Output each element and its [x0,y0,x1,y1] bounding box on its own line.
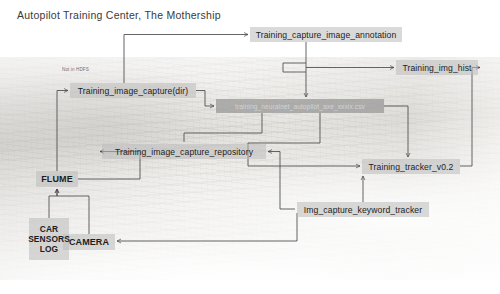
node-training-img-hist[interactable]: Training_img_hist [396,60,478,75]
page-title: Autopilot Training Center, The Mothershi… [17,9,221,21]
node-label-line-2: SENSORS [28,234,70,244]
node-label: CAMERA [69,237,109,247]
node-label: FLUME [41,174,73,184]
node-camera[interactable]: CAMERA [63,234,115,250]
node-label: Training_image_capture(dir) [78,86,188,96]
node-training-capture-image-annotation[interactable]: Training_capture_image_annotation [250,27,402,42]
node-training-tracker-v02[interactable]: Training_tracker_v0.2 [362,159,460,174]
diagram-canvas: Autopilot Training Center, The Mothershi… [0,0,500,294]
node-label: Training_capture_image_annotation [256,30,397,40]
node-label-line-1: CAR [40,224,58,234]
node-training-neuralnet-csv[interactable]: training_neuralnet_autopilot_axe_xxxix.c… [216,99,384,113]
node-label-line-3: LOG [40,244,58,254]
node-training-image-capture-dir[interactable]: Training_image_capture(dir) [70,83,196,98]
node-label: Training_img_hist [402,63,471,73]
node-car-sensors-log[interactable]: CAR SENSORS LOG [29,218,69,260]
node-label: Training_tracker_v0.2 [369,162,454,172]
node-flume[interactable]: FLUME [36,171,78,187]
node-img-capture-keyword-tracker[interactable]: Img_capture_keyword_tracker [297,202,429,217]
node-label: training_neuralnet_autopilot_axe_xxxix.c… [235,103,365,110]
node-training-image-capture-repository[interactable]: Training_image_capture_repository [102,144,266,159]
not-in-hdfs-label: Not in HDFS [62,67,89,72]
node-label: Training_image_capture_repository [115,147,253,157]
node-label: Img_capture_keyword_tracker [304,205,422,215]
